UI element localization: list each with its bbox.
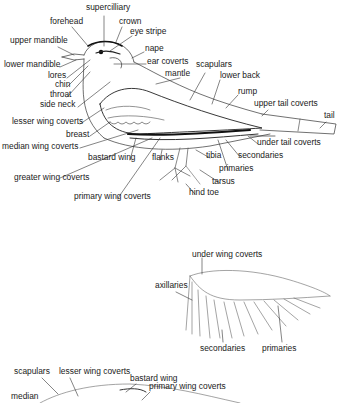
label-lower-back: lower back (220, 71, 260, 80)
label-chin: chin (55, 80, 70, 89)
label-scapulars: scapulars (196, 60, 232, 69)
bird-anatomy-diagram: supercilliary forehead crown eye stripe … (0, 0, 346, 403)
label-upper-tail-coverts: upper tail coverts (254, 99, 318, 108)
label-tail: tail (324, 111, 335, 120)
label-ear-coverts: ear coverts (147, 57, 188, 66)
label-primaries: primaries (219, 164, 253, 173)
label-lesser-wing-coverts: lesser wing coverts (12, 117, 83, 126)
label-flanks: flanks (152, 153, 174, 162)
label-secondaries: secondaries (238, 151, 283, 160)
label-forehead: forehead (50, 17, 83, 26)
label-upperwing-primary-wing-coverts: primary wing coverts (149, 382, 226, 391)
label-primary-wing-coverts: primary wing coverts (74, 192, 151, 201)
label-eye-stripe: eye stripe (130, 27, 166, 36)
label-supercilliary: supercilliary (86, 3, 130, 12)
label-upper-mandible: upper mandible (10, 36, 68, 45)
label-axillaries: axillaries (155, 281, 188, 290)
label-hind-toe: hind toe (189, 188, 219, 197)
label-lower-mandible: lower mandible (4, 60, 60, 69)
label-crown: crown (119, 17, 141, 26)
label-mantle: mantle (165, 69, 190, 78)
label-tarsus: tarsus (212, 177, 235, 186)
label-under-tail-coverts: under tail coverts (257, 138, 321, 147)
label-under-wing-coverts: under wing coverts (192, 250, 262, 259)
label-underwing-secondaries: secondaries (200, 344, 245, 353)
label-side-neck: side neck (40, 100, 75, 109)
label-upperwing-scapulars: scapulars (14, 367, 50, 376)
label-tibia: tibia (206, 151, 221, 160)
label-greater-wing-coverts: greater wing coverts (14, 173, 89, 182)
label-rump: rump (238, 87, 257, 96)
underwing-figure (176, 258, 330, 342)
label-median-wing-coverts: median wing coverts (2, 142, 78, 151)
label-upperwing-median: median (11, 392, 38, 401)
label-nape: nape (145, 44, 164, 53)
label-breast: breast (66, 130, 89, 139)
label-upperwing-lesser-wing-coverts: lesser wing coverts (59, 367, 130, 376)
label-bastard-wing: bastard wing (88, 153, 136, 162)
label-underwing-primaries: primaries (262, 344, 296, 353)
label-throat: throat (50, 90, 71, 99)
